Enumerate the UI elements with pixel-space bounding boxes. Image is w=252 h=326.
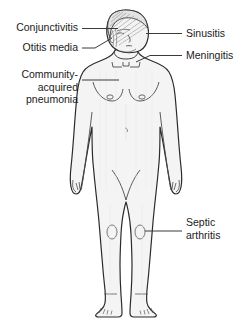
leader-line-otitis-media — [82, 38, 112, 48]
label-sinusitis: Sinusitis — [186, 27, 225, 40]
head-group — [107, 10, 149, 53]
diagram-canvas: Conjunctivitis Otitis media Community- a… — [0, 0, 252, 326]
body-silhouette — [70, 45, 182, 317]
label-meningitis: Meningitis — [186, 49, 233, 62]
label-conjunctivitis: Conjunctivitis — [16, 21, 78, 34]
body-outline-group — [70, 45, 182, 317]
label-community-acquired-pneumonia: Community- acquired pneumonia — [21, 68, 78, 106]
label-septic-arthritis: Septic arthritis — [186, 216, 220, 241]
label-otitis-media: Otitis media — [23, 41, 78, 54]
